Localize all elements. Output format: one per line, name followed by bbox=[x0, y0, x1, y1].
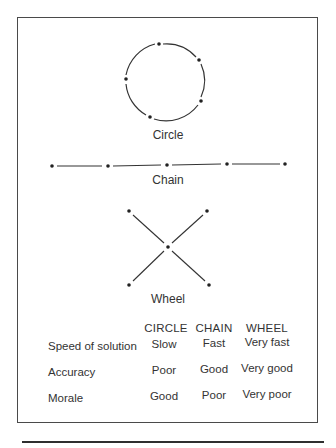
cell: Good bbox=[200, 363, 228, 375]
row-label: Accuracy bbox=[48, 366, 95, 378]
wheel-node bbox=[207, 283, 211, 287]
circle-network bbox=[126, 44, 205, 121]
circle-node bbox=[199, 99, 203, 103]
cell: Poor bbox=[152, 364, 176, 376]
wheel-node bbox=[127, 283, 131, 287]
row-label: Speed of solution bbox=[48, 340, 137, 352]
chain-node bbox=[165, 163, 169, 167]
cell: Slow bbox=[152, 338, 177, 350]
chain-node bbox=[225, 162, 229, 166]
circle-node bbox=[124, 77, 128, 81]
cell: Poor bbox=[202, 389, 226, 401]
cell: Fast bbox=[203, 337, 225, 349]
bottom-rule bbox=[22, 441, 324, 443]
chain-node bbox=[106, 164, 110, 168]
column-header-wheel: WHEEL bbox=[246, 322, 288, 334]
wheel-node bbox=[127, 209, 131, 213]
circle-node bbox=[148, 115, 152, 119]
chain-nodes bbox=[50, 162, 287, 168]
chain-label: Chain bbox=[152, 173, 183, 187]
column-header-chain: CHAIN bbox=[196, 322, 233, 334]
cell: Good bbox=[150, 390, 178, 402]
wheel-node bbox=[205, 209, 209, 213]
cell: Very good bbox=[241, 362, 293, 374]
network-diagrams bbox=[0, 0, 336, 448]
chain-node bbox=[283, 162, 287, 166]
chain-node bbox=[50, 164, 54, 168]
column-header-circle: CIRCLE bbox=[144, 322, 187, 334]
wheel-label: Wheel bbox=[151, 292, 185, 306]
circle-label: Circle bbox=[153, 128, 184, 142]
wheel-center-node bbox=[166, 245, 170, 249]
cell: Very poor bbox=[242, 388, 291, 400]
row-label: Morale bbox=[48, 392, 83, 404]
cell: Very fast bbox=[245, 336, 290, 348]
circle-node bbox=[157, 42, 161, 46]
circle-node bbox=[197, 58, 201, 62]
